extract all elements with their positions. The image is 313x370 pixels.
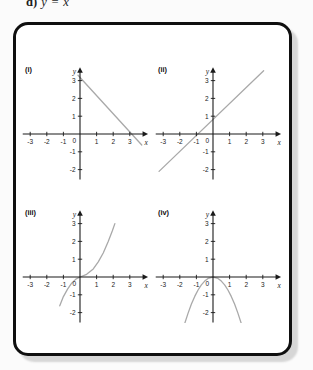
graph-i: -3-2-1123-2-11230yx(i) bbox=[22, 58, 156, 180]
x-tick-label: 3 bbox=[261, 138, 265, 145]
x-tick-label: 2 bbox=[111, 138, 115, 145]
x-axis-label: x bbox=[276, 281, 281, 290]
x-tick-label: 3 bbox=[128, 281, 132, 288]
y-tick-label: -1 bbox=[203, 148, 209, 155]
y-tick-label: 2 bbox=[72, 238, 76, 245]
y-tick-label: -1 bbox=[70, 148, 76, 155]
x-tick-label: 1 bbox=[228, 281, 232, 288]
x-axis-arrow-icon bbox=[276, 274, 282, 280]
exercise-heading: d)y = x bbox=[26, 0, 69, 10]
y-tick-label: 3 bbox=[205, 77, 209, 84]
y-tick-label: 1 bbox=[205, 256, 209, 263]
x-axis-label: x bbox=[143, 281, 148, 290]
graph-label: (i) bbox=[25, 65, 33, 74]
x-tick-label: -3 bbox=[27, 281, 33, 288]
x-axis-arrow-icon bbox=[276, 131, 282, 137]
y-tick-label: 1 bbox=[72, 256, 76, 263]
y-tick-label: 3 bbox=[205, 220, 209, 227]
graphs-panel: -3-2-1123-2-11230yx(i) -3-2-1123-2-11230… bbox=[13, 22, 292, 356]
y-tick-label: 2 bbox=[205, 238, 209, 245]
graph-canvas-i: -3-2-1123-2-11230yx(i) bbox=[22, 58, 156, 180]
graph-label: (iv) bbox=[158, 208, 170, 217]
x-tick-label: -2 bbox=[44, 281, 50, 288]
curve-iii bbox=[60, 224, 115, 306]
y-tick-label: -2 bbox=[203, 309, 209, 316]
x-tick-label: -2 bbox=[44, 138, 50, 145]
y-tick-label: 2 bbox=[205, 95, 209, 102]
x-tick-label: 2 bbox=[244, 138, 248, 145]
x-tick-label: -1 bbox=[61, 138, 67, 145]
x-tick-label: 1 bbox=[95, 281, 99, 288]
y-axis-arrow-icon bbox=[77, 210, 83, 216]
x-tick-label: -3 bbox=[160, 138, 166, 145]
x-tick-label: -1 bbox=[194, 281, 200, 288]
textbook-page: d)y = x -3-2-1123-2-11230yx(i) -3-2-1123… bbox=[0, 0, 313, 370]
y-axis-label: y bbox=[72, 67, 77, 76]
x-tick-label: 3 bbox=[261, 281, 265, 288]
x-axis-label: x bbox=[143, 138, 148, 147]
x-tick-label: -1 bbox=[61, 281, 67, 288]
curve-ii bbox=[159, 71, 264, 172]
y-tick-label: -2 bbox=[70, 166, 76, 173]
y-tick-label: 2 bbox=[72, 95, 76, 102]
graph-canvas-ii: -3-2-1123-2-11230yx(ii) bbox=[155, 58, 289, 180]
y-axis-label: y bbox=[205, 67, 210, 76]
graph-canvas-iv: -3-2-1123-2-11230yx(iv) bbox=[155, 201, 289, 323]
x-tick-label: 3 bbox=[128, 138, 132, 145]
x-tick-label: 1 bbox=[228, 138, 232, 145]
x-tick-label: -2 bbox=[177, 281, 183, 288]
y-tick-label: -2 bbox=[203, 166, 209, 173]
x-tick-label: -1 bbox=[194, 138, 200, 145]
origin-label: 0 bbox=[205, 280, 209, 287]
x-tick-label: -3 bbox=[27, 138, 33, 145]
y-axis-arrow-icon bbox=[210, 67, 216, 73]
origin-label: 0 bbox=[72, 137, 76, 144]
origin-label: 0 bbox=[72, 280, 76, 287]
y-tick-label: -2 bbox=[70, 309, 76, 316]
graph-iv: -3-2-1123-2-11230yx(iv) bbox=[155, 201, 289, 323]
graph-canvas-iii: -3-2-1123-2-11230yx(iii) bbox=[22, 201, 156, 323]
exercise-letter: d) bbox=[26, 0, 37, 9]
y-tick-label: 3 bbox=[72, 77, 76, 84]
y-axis-label: y bbox=[72, 210, 77, 219]
graph-label: (ii) bbox=[158, 65, 168, 74]
x-axis-arrow-icon bbox=[143, 131, 149, 137]
y-axis-label: y bbox=[205, 210, 210, 219]
y-tick-label: -1 bbox=[203, 291, 209, 298]
graph-iii: -3-2-1123-2-11230yx(iii) bbox=[22, 201, 156, 323]
x-tick-label: -3 bbox=[160, 281, 166, 288]
x-tick-label: 1 bbox=[95, 138, 99, 145]
graph-ii: -3-2-1123-2-11230yx(ii) bbox=[155, 58, 289, 180]
curve-i bbox=[78, 75, 142, 145]
graph-label: (iii) bbox=[25, 208, 37, 217]
y-axis-arrow-icon bbox=[77, 67, 83, 73]
y-tick-label: 3 bbox=[72, 220, 76, 227]
x-tick-label: -2 bbox=[177, 138, 183, 145]
y-axis-arrow-icon bbox=[210, 210, 216, 216]
x-tick-label: 2 bbox=[244, 281, 248, 288]
y-tick-label: 1 bbox=[72, 113, 76, 120]
x-axis-label: x bbox=[276, 138, 281, 147]
x-tick-label: 2 bbox=[111, 281, 115, 288]
x-axis-arrow-icon bbox=[143, 274, 149, 280]
y-tick-label: -1 bbox=[70, 291, 76, 298]
y-tick-label: 1 bbox=[205, 113, 209, 120]
exercise-formula: y = x bbox=[41, 0, 69, 9]
origin-label: 0 bbox=[205, 137, 209, 144]
